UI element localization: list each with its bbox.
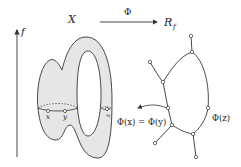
map-arrow-phi: Φ <box>100 7 157 22</box>
reeb-graph-label: R f <box>163 16 177 31</box>
map-label-phi: Φ <box>124 7 131 17</box>
svg-text:R: R <box>163 16 172 29</box>
height-axis: f <box>17 26 27 157</box>
annotation-phi-z: Φ(z) <box>212 113 230 123</box>
axis-label-f: f <box>20 26 27 37</box>
svg-text:f: f <box>172 23 177 31</box>
point-z <box>105 107 108 110</box>
annotation-phi-x-equals-phi-y: Φ(x) = Φ(y) <box>117 117 166 127</box>
reeb-graph-diagram: f X Φ R f x y z <box>0 0 241 167</box>
point-label-x: x <box>46 113 50 121</box>
space-label-x: X <box>67 13 77 26</box>
reeb-graph <box>138 36 208 157</box>
surface-x: x y z <box>38 37 113 158</box>
